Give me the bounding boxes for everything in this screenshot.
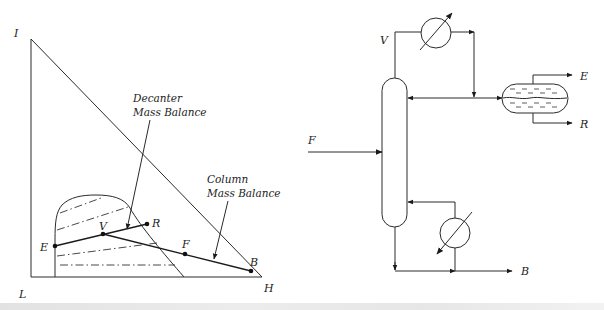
- point-f: [183, 252, 188, 257]
- point-label-b: B: [249, 256, 258, 269]
- column-balance-line: [103, 234, 251, 271]
- decanter-annotation-line1: Decanter: [132, 92, 183, 104]
- decanter-annotation-line2: Mass Balance: [132, 106, 207, 118]
- condenser: [420, 13, 452, 50]
- raffinate-label: R: [579, 118, 588, 131]
- reboiler: [437, 212, 472, 254]
- point-r: [145, 222, 150, 227]
- ternary-diagram: I L H E V R F B Decanter Mass Balance Co…: [13, 27, 281, 301]
- extract-stream: [533, 75, 572, 84]
- column-annotation-line2: Mass Balance: [206, 187, 281, 199]
- figure: I L H E V R F B Decanter Mass Balance Co…: [0, 0, 604, 310]
- vertex-label-h: H: [263, 282, 274, 295]
- bottom-strip: [0, 303, 604, 310]
- decanter-annotation-arrow: [127, 120, 150, 229]
- point-label-v: V: [99, 220, 108, 233]
- vertex-label-i: I: [13, 27, 19, 40]
- distillation-column: [382, 78, 407, 227]
- decanter: [502, 84, 568, 113]
- point-b: [249, 269, 254, 274]
- column-annotation-line1: Column: [207, 173, 248, 185]
- condenser-arrow-icon: [420, 13, 452, 50]
- flowsheet: F V: [307, 13, 588, 278]
- point-label-e: E: [39, 241, 48, 254]
- feed-label: F: [307, 134, 316, 147]
- vapor-label: V: [380, 34, 389, 47]
- vertex-label-l: L: [18, 288, 26, 301]
- raffinate-stream: [533, 113, 572, 123]
- boilup-line: [408, 202, 455, 218]
- ternary-triangle: [31, 39, 262, 277]
- point-label-f: F: [181, 238, 190, 251]
- point-e: [53, 244, 58, 249]
- vapor-line: [395, 32, 421, 78]
- point-label-r: R: [151, 217, 160, 230]
- extract-label: E: [579, 70, 588, 83]
- bottoms-label: B: [520, 265, 529, 278]
